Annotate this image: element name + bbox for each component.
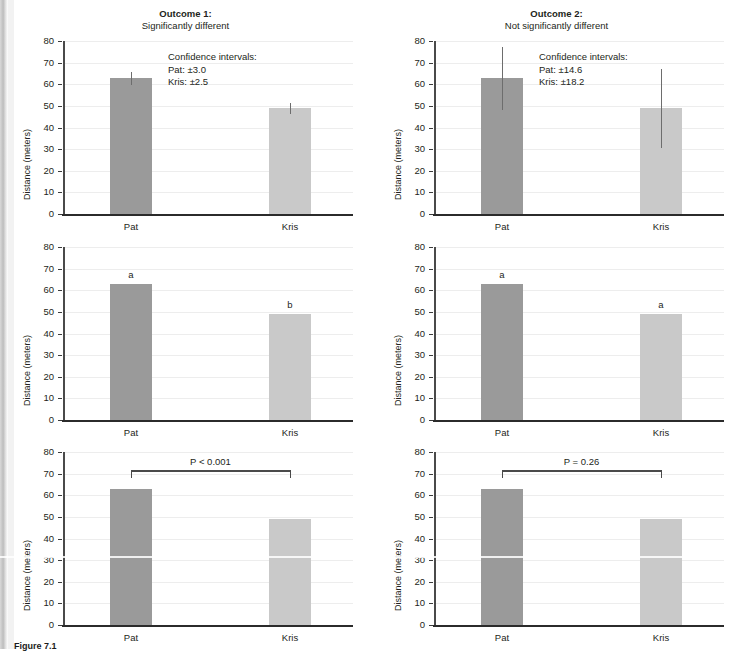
panel-title-1: Outcome 1:Significantly different <box>0 8 371 32</box>
panel-r3c2-ytick-label-70: 70 <box>403 469 425 479</box>
panel-r3c1-gridline-60 <box>63 495 353 496</box>
panel-r3c2-ytick-mark-50 <box>429 517 433 518</box>
panel-r2c2-ytick-mark-10 <box>429 398 433 399</box>
panel-r1c2-ytick-mark-60 <box>429 84 433 85</box>
panel-r1c1-y-axis <box>63 41 65 215</box>
panel-r3c1-ytick-label-0: 0 <box>32 620 54 630</box>
panel-r2c1-ytick-mark-50 <box>58 312 62 313</box>
panel-r1c1-ytick-mark-60 <box>58 84 62 85</box>
panel-r2c1-ytick-mark-10 <box>58 398 62 399</box>
panel-r1c1-ytick-label-30: 30 <box>32 144 54 154</box>
panel-r3c2-xtick-label-kris: Kris <box>631 632 691 643</box>
panel-r2c2-ytick-label-50: 50 <box>403 307 425 317</box>
panel-r1c2-confidence-interval-note: Confidence intervals:Pat: ±14.6Kris: ±18… <box>539 51 628 89</box>
panel-title-sub-1: Significantly different <box>0 20 371 32</box>
panel-r1c1-ytick-label-50: 50 <box>32 101 54 111</box>
panel-r3c1-ytick-mark-40 <box>58 539 62 540</box>
panel-r2c2-significance-letter-pat: a <box>492 269 512 280</box>
panel-r3c2-gridline-70 <box>434 474 724 475</box>
panel-r2c1-ytick-label-60: 60 <box>32 285 54 295</box>
panel-r3c1-gridline-80 <box>63 452 353 453</box>
panel-r3c1-gridline-50 <box>63 517 353 518</box>
panel-r3c1-bar-kris <box>269 519 311 625</box>
panel-r2c1-ytick-label-40: 40 <box>32 329 54 339</box>
panel-r3c2-gridline-80 <box>434 452 724 453</box>
panel-r3c1-ytick-mark-20 <box>58 582 62 583</box>
panel-r2c2-gridline-70 <box>434 269 724 270</box>
panel-r1c2-x-axis <box>433 214 724 216</box>
panel-r2c2-ytick-mark-40 <box>429 334 433 335</box>
panel-title-2: Outcome 2:Not significantly different <box>371 8 742 32</box>
panel-r2c2-ytick-mark-20 <box>429 377 433 378</box>
panel-r2c1-ytick-label-20: 20 <box>32 372 54 382</box>
panel-r2c1-ytick-label-10: 10 <box>32 393 54 403</box>
panel-r2c2-bar-pat <box>481 284 523 420</box>
panel-r1c2-ytick-label-40: 40 <box>403 123 425 133</box>
panel-r1c2-ci-line-2: Pat: ±14.6 <box>539 64 628 77</box>
panel-r3c2-ytick-label-60: 60 <box>403 490 425 500</box>
panel-r2c2-ytick-mark-60 <box>429 290 433 291</box>
panel-r1c1-ci-line-1: Confidence intervals: <box>168 51 257 64</box>
panel-r2c1-y-axis <box>63 247 65 421</box>
panel-r1c2-ci-line-1: Confidence intervals: <box>539 51 628 64</box>
panel-r2c2-ytick-label-20: 20 <box>403 372 425 382</box>
panel-r1c2-ytick-label-70: 70 <box>403 58 425 68</box>
panel-r3c1-ytick-label-20: 20 <box>32 577 54 587</box>
figure-caption: Figure 7.1 <box>14 641 57 652</box>
panel-r1c1-error-bar-pat <box>131 72 132 85</box>
panel-r1c2-gridline-80 <box>434 41 724 42</box>
panel-r1c2-ytick-label-20: 20 <box>403 166 425 176</box>
panel-r2c1-ytick-mark-80 <box>58 247 62 248</box>
panel-r3c1-ytick-label-60: 60 <box>32 490 54 500</box>
panel-r1c2-error-bar-kris <box>661 69 662 148</box>
panel-r3c1-ytick-mark-80 <box>58 452 62 453</box>
panel-r2c1-ytick-label-80: 80 <box>32 242 54 252</box>
panel-r2c1-gridline-60 <box>63 290 353 291</box>
panel-r3c2-ytick-mark-80 <box>429 452 433 453</box>
panel-r2c1-xtick-label-pat: Pat <box>101 427 161 438</box>
panel-r1c1-ytick-label-80: 80 <box>32 36 54 46</box>
panel-r1c2-ytick-mark-20 <box>429 171 433 172</box>
panel-r3c1-ytick-label-80: 80 <box>32 447 54 457</box>
panel-r2c1-ytick-mark-40 <box>58 334 62 335</box>
panel-r1c1-ci-line-3: Kris: ±2.5 <box>168 76 257 89</box>
panel-r2c1-xtick-label-kris: Kris <box>260 427 320 438</box>
panel-r2c2-xtick-label-kris: Kris <box>631 427 691 438</box>
panel-r3c2-xtick-label-pat: Pat <box>472 632 532 643</box>
panel-r3c2-ytick-label-10: 10 <box>403 598 425 608</box>
panel-r3c2-ytick-label-40: 40 <box>403 534 425 544</box>
panel-r3c1-ytick-label-70: 70 <box>32 469 54 479</box>
panel-r2c1-significance-letter-kris: b <box>280 299 300 310</box>
panel-r3c1-ytick-mark-30 <box>58 560 62 561</box>
panel-r3c1-xtick-label-pat: Pat <box>101 632 161 643</box>
panel-r1c2-ytick-mark-80 <box>429 41 433 42</box>
panel-r1c2-y-axis-title: Distance (meters) <box>393 129 403 200</box>
panel-r1c1-ytick-label-0: 0 <box>32 209 54 219</box>
panel-r1c1-xtick-label-pat: Pat <box>101 221 161 232</box>
panel-r2c1-ytick-mark-60 <box>58 290 62 291</box>
panel-r1c2-ytick-label-80: 80 <box>403 36 425 46</box>
panel-r1c1-ytick-mark-10 <box>58 192 62 193</box>
panel-r2c2-ytick-mark-70 <box>429 269 433 270</box>
panel-r1c1-ytick-label-60: 60 <box>32 79 54 89</box>
panel-r1c1-ytick-mark-80 <box>58 41 62 42</box>
panel-r3c2-pvalue-label: P = 0.26 <box>522 456 642 467</box>
panel-r3c1-ytick-mark-50 <box>58 517 62 518</box>
panel-r2c2-y-axis-title: Distance (meters) <box>393 335 403 406</box>
panel-r1c1-bar-pat <box>110 78 152 214</box>
panel-r1c2-ytick-mark-10 <box>429 192 433 193</box>
panel-r1c1-gridline-80 <box>63 41 353 42</box>
panel-r2c1-gridline-70 <box>63 269 353 270</box>
panel-r3c2-ytick-mark-30 <box>429 560 433 561</box>
panel-r3c2-ytick-mark-10 <box>429 603 433 604</box>
panel-r2c1-gridline-50 <box>63 312 353 313</box>
panel-r2c1-ytick-mark-70 <box>58 269 62 270</box>
panel-r3c1-ytick-mark-60 <box>58 495 62 496</box>
panel-r3c2-bar-kris <box>640 519 682 625</box>
panel-r2c2-ytick-mark-30 <box>429 355 433 356</box>
panel-r3c1-xtick-label-kris: Kris <box>260 632 320 643</box>
panel-r1c2-ytick-label-10: 10 <box>403 187 425 197</box>
panel-r1c1-error-bar-kris <box>290 103 291 114</box>
panel-r2c2-gridline-60 <box>434 290 724 291</box>
